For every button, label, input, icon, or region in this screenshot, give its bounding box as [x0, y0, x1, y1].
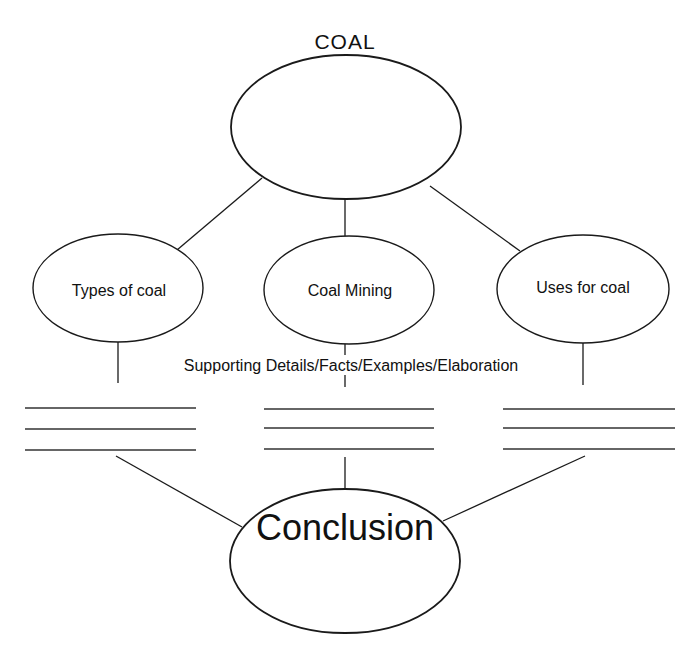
subtopic-types: Types of coal	[33, 234, 203, 342]
coal-graphic-organizer: COAL Types of coal Coal Mining Uses for …	[0, 0, 698, 659]
subtopic-types-label: Types of coal	[72, 282, 166, 299]
connector-types-details-to-conclusion	[116, 456, 242, 527]
diagram-title: COAL	[314, 30, 375, 53]
main-topic-ellipse[interactable]	[231, 55, 461, 199]
detail-lines-mining	[264, 409, 434, 449]
subtopic-uses: Uses for coal	[497, 235, 669, 343]
connector-uses-details-to-conclusion	[443, 456, 585, 521]
detail-lines-uses	[503, 409, 675, 449]
detail-lines-types	[25, 408, 196, 450]
connector-main-to-types	[177, 178, 262, 250]
supporting-details-label: Supporting Details/Facts/Examples/Elabor…	[184, 357, 518, 374]
subtopic-mining-label: Coal Mining	[308, 282, 392, 299]
conclusion-label: Conclusion	[256, 507, 434, 548]
connector-main-to-uses	[430, 186, 520, 251]
subtopic-mining: Coal Mining	[264, 236, 434, 344]
subtopic-uses-label: Uses for coal	[536, 279, 629, 296]
